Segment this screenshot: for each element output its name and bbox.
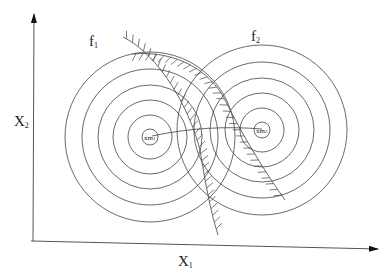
minima-connecting-path: [152, 128, 262, 136]
x-axis-label: X1: [178, 253, 193, 270]
min1-label: xm1: [144, 134, 155, 142]
f2-label: f2: [251, 28, 260, 45]
y-axis-label: X2: [14, 113, 29, 130]
constraint-1-curve: [123, 37, 218, 235]
contour-diagram: [0, 0, 388, 273]
min2-label: xm2: [256, 127, 267, 135]
f1-label: f1: [89, 33, 98, 50]
y-axis: [33, 14, 34, 241]
x-axis: [31, 241, 378, 249]
